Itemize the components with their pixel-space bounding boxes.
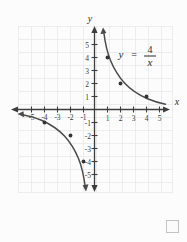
x-tick-label: 4 [145, 114, 149, 123]
x-tick-label: -2 [67, 113, 73, 122]
y-tick-label: -1 [85, 119, 91, 128]
y-tick-label: 4 [85, 54, 89, 63]
page-background: -5 -4 -3 -2 -1 1 2 3 4 5 5 4 3 2 1 -1 -2… [0, 0, 187, 242]
square-outline-icon [166, 220, 179, 233]
curve-branch-quadrant-3 [23, 115, 86, 188]
point-neg4-neg1 [43, 121, 47, 125]
point-4-1 [145, 95, 149, 99]
equation-denominator: x [147, 56, 153, 68]
x-tick-label: 3 [132, 114, 136, 123]
x-axis-arrow-right [163, 106, 170, 112]
x-axis-label: x [174, 96, 180, 107]
y-tick-label: -3 [85, 145, 91, 154]
x-axis-arrow-left [11, 106, 18, 112]
curve-arrow-upper-right [100, 28, 106, 35]
graph-figure: -5 -4 -3 -2 -1 1 2 3 4 5 5 4 3 2 1 -1 -2… [0, 0, 187, 242]
y-tick-label: 3 [85, 67, 89, 76]
equation-lhs: y [118, 48, 124, 60]
y-tick-label: 1 [85, 93, 89, 102]
y-tick-label: 2 [85, 80, 89, 89]
point-1-4 [106, 56, 110, 60]
point-neg1-neg4 [82, 160, 86, 164]
x-tick-label: -3 [54, 113, 60, 122]
equation-equals: = [131, 49, 137, 60]
y-tick-label: -4 [85, 158, 91, 167]
x-tick-label: 5 [158, 114, 162, 123]
equation-label: y = 4 x [118, 44, 156, 68]
coordinate-plane: -5 -4 -3 -2 -1 1 2 3 4 5 5 4 3 2 1 -1 -2… [0, 0, 187, 242]
x-tick-label: 2 [119, 114, 123, 123]
y-tick-label: 5 [85, 41, 89, 50]
equation-numerator: 4 [148, 44, 153, 55]
y-axis-label: y [87, 13, 93, 24]
curve-branch-quadrant-1 [104, 31, 166, 104]
point-neg2-neg2 [69, 134, 73, 138]
y-tick-label: -2 [85, 132, 91, 141]
y-tick-label: -5 [85, 171, 91, 180]
point-2-2 [119, 82, 123, 86]
x-tick-label: 1 [106, 114, 110, 123]
